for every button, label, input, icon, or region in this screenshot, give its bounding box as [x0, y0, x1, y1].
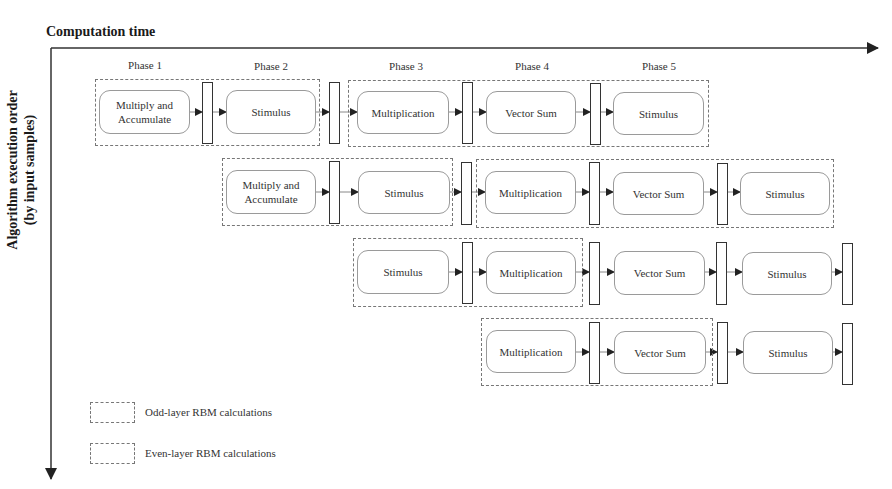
row4-register-1 — [589, 322, 600, 384]
row2-stage-vector-sum: Vector Sum — [613, 172, 704, 215]
row1-register-3 — [462, 82, 473, 144]
row1-register-4 — [590, 83, 601, 145]
row3-stage-stimulus-2: Stimulus — [742, 252, 832, 295]
row3-register-4 — [842, 243, 853, 305]
legend-even-label: Even-layer RBM calculations — [145, 447, 276, 459]
row4-stage-stimulus: Stimulus — [743, 331, 833, 374]
legend-even-swatch — [90, 443, 135, 464]
row1-register-1 — [202, 82, 213, 144]
row2-register-1 — [329, 161, 340, 224]
row3-stage-vector-sum: Vector Sum — [614, 251, 705, 295]
row1-stage-stimulus: Stimulus — [226, 90, 316, 134]
y-axis-label-line1: Algorithm execution order — [4, 60, 21, 280]
y-axis-label-line2: (by input samples) — [21, 60, 38, 280]
row1-stage-vector-sum: Vector Sum — [486, 91, 576, 134]
phase-4-label: Phase 4 — [492, 60, 572, 72]
row3-stage-stimulus: Stimulus — [357, 250, 449, 294]
row4-register-2 — [717, 322, 728, 384]
phase-5-label: Phase 5 — [619, 60, 699, 72]
legend-odd-label: Odd-layer RBM calculations — [145, 406, 272, 418]
row2-stage-multiply-accumulate: Multiply and Accumulate — [226, 170, 316, 214]
phase-3-label: Phase 3 — [366, 60, 446, 72]
phase-1-label: Phase 1 — [105, 59, 185, 71]
x-axis-label: Computation time — [46, 24, 155, 40]
row2-stage-stimulus-2: Stimulus — [740, 172, 830, 215]
row3-register-1 — [462, 242, 473, 304]
phase-2-label: Phase 2 — [231, 60, 311, 72]
row2-stage-stimulus: Stimulus — [358, 171, 450, 214]
row4-stage-multiplication: Multiplication — [486, 330, 576, 373]
row3-register-2 — [589, 242, 600, 305]
y-axis-label: Algorithm execution order (by input samp… — [4, 60, 44, 280]
row3-stage-multiplication: Multiplication — [486, 251, 576, 294]
row1-stage-multiply-accumulate: Multiply and Accumulate — [99, 90, 190, 134]
row1-stage-multiplication: Multiplication — [357, 91, 449, 134]
pipeline-diagram: Computation time Algorithm execution ord… — [0, 0, 892, 489]
legend-odd-swatch — [90, 402, 135, 423]
row1-register-2 — [329, 82, 340, 144]
row1-stage-stimulus-2: Stimulus — [613, 92, 704, 135]
row2-stage-multiplication: Multiplication — [485, 171, 576, 214]
row4-stage-vector-sum: Vector Sum — [614, 331, 706, 374]
row3-register-3 — [716, 242, 727, 305]
row2-register-4 — [717, 163, 728, 225]
row2-register-2 — [461, 162, 472, 225]
row2-register-3 — [589, 162, 600, 225]
row4-register-3 — [842, 323, 853, 385]
